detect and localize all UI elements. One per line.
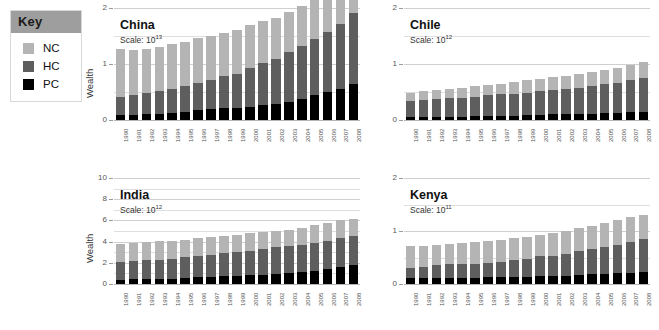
x-tick-label: 1991 [426,129,432,142]
gridline [404,8,650,9]
bar-segment-hc [155,91,165,113]
x-tick-label: 1995 [478,129,484,142]
y-tick-label: 2 [386,3,397,12]
bar-segment-hc [258,249,268,274]
y-tick-label: 0 [386,279,397,288]
bar-segment-nc [219,33,229,77]
bar-segment-nc [180,42,190,87]
bar-segment-hc [457,98,467,117]
y-tick-label: 1 [386,226,397,235]
y-tick-label: 0 [386,115,397,124]
bar-segment-pc [336,89,346,120]
scale-exponent: 12 [445,34,452,40]
bar-segment-pc [219,108,229,120]
x-tick-label: 1992 [439,129,445,142]
bar-1992 [142,49,152,120]
x-tick-label: 2006 [621,129,627,142]
bar-segment-hc [219,76,229,108]
plot-area [114,178,360,284]
x-tick-label: 2004 [595,293,601,306]
bar-segment-hc [310,39,320,95]
bar-segment-pc [219,276,229,284]
bar-2004 [297,228,307,284]
bar-segment-hc [483,95,493,116]
gridline [114,178,360,179]
x-tick-label: 2001 [556,129,562,142]
bar-segment-nc [155,47,165,91]
bar-2000 [535,79,545,120]
y-tick-mark [109,220,113,221]
x-tick-label: 2002 [569,129,575,142]
x-tick-label: 2001 [556,293,562,306]
x-tick-label: 2002 [569,293,575,306]
bar-segment-nc [284,230,294,247]
gridline [114,220,360,221]
bar-segment-nc [310,225,320,242]
bar-segment-hc [639,78,649,112]
bar-2001 [258,232,268,284]
bar-segment-nc [284,12,294,52]
bar-2005 [310,0,320,120]
x-tick-label: 1990 [123,293,129,306]
bar-2006 [613,220,623,284]
bar-segment-hc [535,256,545,276]
x-tick-label: 1995 [188,129,194,142]
bar-1993 [155,47,165,120]
x-tick-label: 1995 [478,293,484,306]
x-tick-label: 2000 [253,129,259,142]
x-tick-label: 1990 [413,129,419,142]
x-tick-label: 1992 [149,293,155,306]
x-tick-label: 1999 [240,293,246,306]
bar-segment-hc [406,101,416,117]
bar-1992 [432,90,442,120]
bar-segment-hc [522,259,532,276]
legend-swatch-hc [23,61,34,72]
bar-1995 [180,240,190,284]
x-axis-line [114,120,360,121]
bar-1998 [219,33,229,120]
bar-1992 [142,242,152,284]
bar-segment-pc [574,275,584,284]
bar-segment-nc [548,77,558,90]
y-tick-mark [109,199,113,200]
bar-segment-pc [271,104,281,120]
bar-segment-hc [574,88,584,114]
bar-segment-pc [297,272,307,284]
bar-segment-pc [284,273,294,284]
bar-segment-hc [613,83,623,113]
bar-segment-nc [470,86,480,96]
bar-segment-nc [232,30,242,74]
bar-segment-pc [613,273,623,284]
bar-segment-nc [509,82,519,94]
bar-segment-nc [180,240,190,258]
bar-segment-hc [600,84,610,113]
bar-segment-hc [336,24,346,88]
scale-prefix: Scale: [120,205,146,215]
bar-segment-hc [483,263,493,277]
x-tick-label: 1993 [162,293,168,306]
y-tick-mark [399,178,403,179]
bar-1990 [116,49,126,120]
bar-segment-pc [522,277,532,284]
gridline [404,64,650,65]
bar-2004 [587,226,597,284]
x-tick-label: 2000 [543,129,549,142]
bar-segment-nc [574,74,584,88]
bar-segment-nc [116,49,126,97]
y-tick-label: 0 [96,279,107,288]
x-tick-label: 1994 [175,293,181,306]
y-tick-mark [109,284,113,285]
bar-segment-nc [626,65,636,81]
y-tick-mark [399,231,403,232]
bar-segment-pc [206,277,216,284]
bar-1996 [193,38,203,120]
y-tick-label: 4 [96,237,107,246]
bar-segment-pc [323,92,333,120]
bar-segment-hc [193,256,203,278]
bar-2007 [626,65,636,120]
chart-panel-china: 012WealthChinaScale: 1013199019911992199… [96,6,364,144]
panel-title: China [120,18,155,32]
scale-exponent: 11 [445,204,451,210]
bar-1993 [445,89,455,120]
bar-segment-hc [284,52,294,102]
